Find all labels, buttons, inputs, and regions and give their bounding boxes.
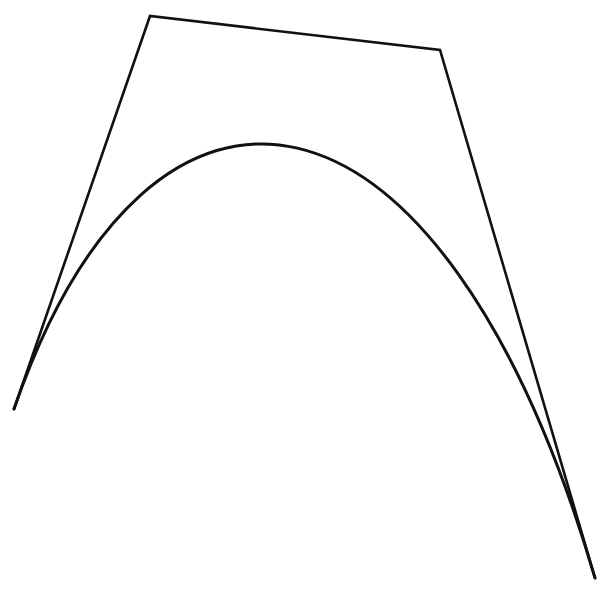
control-polygon	[14, 16, 595, 578]
bezier-diagram	[0, 0, 609, 593]
bezier-curve	[14, 144, 595, 578]
